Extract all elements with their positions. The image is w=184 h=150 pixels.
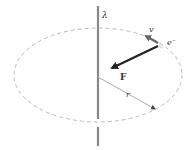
- force-arrow: [112, 46, 158, 68]
- radius-label: r: [126, 90, 131, 99]
- force-label: F: [120, 72, 127, 82]
- velocity-label: v: [149, 25, 154, 34]
- diagram-canvas: λ v e⁻ F r: [0, 0, 184, 150]
- electron-label: e⁻: [167, 38, 176, 47]
- velocity-arrow: [146, 36, 158, 43]
- lambda-label: λ: [101, 10, 108, 20]
- electron-particle: [159, 44, 163, 48]
